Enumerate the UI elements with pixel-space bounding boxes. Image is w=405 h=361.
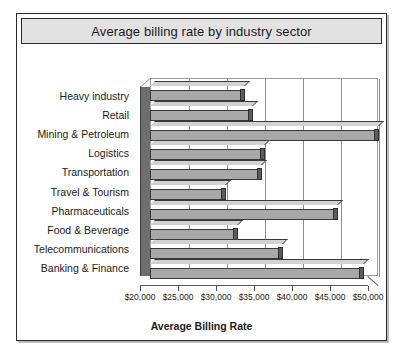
category-label: Transportation xyxy=(17,163,134,182)
category-label: Logistics xyxy=(17,144,134,163)
axis-tick xyxy=(140,286,141,291)
bar-front-face xyxy=(150,169,262,180)
category-label: Food & Beverage xyxy=(17,220,134,239)
axis-tick xyxy=(254,286,255,291)
value-axis: $20,000$25,000$30,000$35,000$40,000$45,0… xyxy=(140,286,380,312)
bar-top-face xyxy=(150,121,384,126)
bar-front-face xyxy=(150,189,226,200)
axis-tick-label: $20,000 xyxy=(125,292,156,302)
bar-front-face xyxy=(150,130,379,141)
bar-front-face xyxy=(150,248,283,259)
bar-end-cap xyxy=(248,109,253,121)
bar-top-face xyxy=(150,140,270,145)
bar-front-face xyxy=(150,229,238,240)
gridline xyxy=(379,79,380,277)
bar-top-face xyxy=(150,200,343,205)
axis-tick-label: $40,000 xyxy=(277,292,308,302)
plot-area xyxy=(140,78,378,286)
bar-top-face xyxy=(150,239,288,244)
bar-front-face xyxy=(150,149,265,160)
bar-front-face xyxy=(150,90,245,101)
axis-tick xyxy=(368,286,369,291)
bar-end-cap xyxy=(257,168,262,180)
axis-tick xyxy=(216,286,217,291)
category-label: Telecommunications xyxy=(17,240,134,259)
bar-end-cap xyxy=(221,188,226,200)
bar-end-cap xyxy=(260,148,265,160)
bar-top-face xyxy=(150,160,267,165)
bar-top-face xyxy=(150,101,258,106)
bar-series xyxy=(140,86,378,284)
category-axis-labels: Heavy industryRetailMining & PetroleumLo… xyxy=(17,86,134,278)
axis-tick-label: $30,000 xyxy=(201,292,232,302)
axis-tick-label: $25,000 xyxy=(163,292,194,302)
bar-end-cap xyxy=(240,89,245,101)
category-label: Heavy industry xyxy=(17,86,134,105)
category-label: Retail xyxy=(17,105,134,124)
bar-top-face xyxy=(150,81,250,86)
bar-end-cap xyxy=(359,267,364,279)
bar-end-cap xyxy=(278,247,283,259)
bar-front-face xyxy=(150,268,364,279)
bar-top-face xyxy=(150,259,369,264)
bar-front-face xyxy=(150,110,253,121)
bar-top-face xyxy=(150,180,231,185)
chart-container: Average billing rate by industry sector … xyxy=(16,13,387,341)
category-label: Mining & Petroleum xyxy=(17,124,134,143)
chart-title-bar: Average billing rate by industry sector xyxy=(21,18,382,44)
plot-wrapper: Heavy industryRetailMining & PetroleumLo… xyxy=(17,48,386,340)
chart-title: Average billing rate by industry sector xyxy=(91,24,311,39)
bar-end-cap xyxy=(374,129,379,141)
axis-tick xyxy=(178,286,179,291)
category-label: Travel & Tourism xyxy=(17,182,134,201)
axis-tick xyxy=(292,286,293,291)
category-label: Pharmaceuticals xyxy=(17,201,134,220)
category-label: Banking & Finance xyxy=(17,259,134,278)
axis-tick-label: $50,000 xyxy=(353,292,384,302)
axis-tick-label: $35,000 xyxy=(239,292,270,302)
axis-tick xyxy=(330,286,331,291)
bar-end-cap xyxy=(333,208,338,220)
bar-top-face xyxy=(150,220,243,225)
axis-tick-label: $45,000 xyxy=(315,292,346,302)
bar-item xyxy=(140,264,368,284)
bar-end-cap xyxy=(233,228,238,240)
bar-front-face xyxy=(150,209,338,220)
value-axis-title: Average Billing Rate xyxy=(17,320,386,332)
